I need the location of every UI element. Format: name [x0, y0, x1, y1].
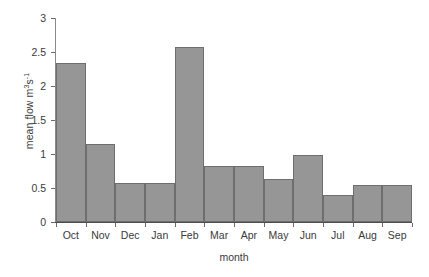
x-axis-tick-label: Aug	[353, 228, 383, 242]
y-axis-tick-labels: 00.511.522.53	[24, 0, 50, 277]
x-axis-tick-label: Jan	[145, 228, 175, 242]
y-axis-tick-mark	[51, 52, 55, 53]
bar-chart: mean flow m3s-1 00.511.522.53 OctNovDecJ…	[0, 0, 429, 277]
y-axis-tick-mark	[51, 154, 55, 155]
y-axis-tick-label: 1.5	[24, 115, 50, 125]
x-axis-tick-label: Jun	[293, 228, 323, 242]
y-axis-tick-mark	[51, 120, 55, 121]
bar	[204, 166, 234, 222]
x-axis-tick-mark	[353, 223, 354, 227]
x-axis-tick-label: Apr	[234, 228, 264, 242]
y-axis-tick-label: 1	[24, 149, 50, 159]
bar	[234, 166, 264, 222]
bar	[323, 195, 353, 222]
bar	[145, 183, 175, 222]
bar	[175, 47, 205, 222]
x-axis-tick-labels: OctNovDecJanFebMarAprMayJunJulAugSep	[56, 228, 412, 244]
y-axis-tick-mark	[51, 86, 55, 87]
y-axis-tick-mark	[51, 222, 55, 223]
y-axis-tick-label: 2.5	[24, 47, 50, 57]
x-axis-tick-label: Dec	[115, 228, 145, 242]
x-axis-tick-mark	[56, 223, 57, 227]
y-axis-tick-label: 3	[24, 13, 50, 23]
x-axis-tick-mark	[175, 223, 176, 227]
x-axis-tick-mark	[145, 223, 146, 227]
y-axis-tick-label: 2	[24, 81, 50, 91]
x-axis-tick-mark	[204, 223, 205, 227]
y-axis-tick-label: 0	[24, 217, 50, 227]
x-axis-tick-mark	[115, 223, 116, 227]
bar	[382, 185, 412, 222]
x-axis-title: month	[56, 250, 412, 264]
x-axis-tick-mark	[264, 223, 265, 227]
x-axis-tick-mark	[412, 223, 413, 227]
bar	[293, 155, 323, 222]
bar	[115, 183, 145, 222]
x-axis-tick-label: Feb	[175, 228, 205, 242]
x-axis-tick-mark	[382, 223, 383, 227]
x-axis-tick-mark	[293, 223, 294, 227]
x-axis-tick-mark	[234, 223, 235, 227]
x-axis-tick-mark	[323, 223, 324, 227]
y-axis-tick-mark	[51, 188, 55, 189]
bar	[353, 185, 383, 222]
x-axis-tick-label: Sep	[382, 228, 412, 242]
y-axis-tick-label: 0.5	[24, 183, 50, 193]
x-axis-tick-label: Mar	[204, 228, 234, 242]
x-axis-tick-label: Oct	[56, 228, 86, 242]
plot-area	[56, 18, 412, 222]
x-axis-tick-label: May	[264, 228, 294, 242]
bar	[56, 63, 86, 222]
bar	[264, 179, 294, 222]
x-axis-tick-label: Jul	[323, 228, 353, 242]
y-axis-tick-mark	[51, 18, 55, 19]
bar	[86, 144, 116, 222]
x-axis-tick-label: Nov	[86, 228, 116, 242]
x-axis-tick-mark	[86, 223, 87, 227]
